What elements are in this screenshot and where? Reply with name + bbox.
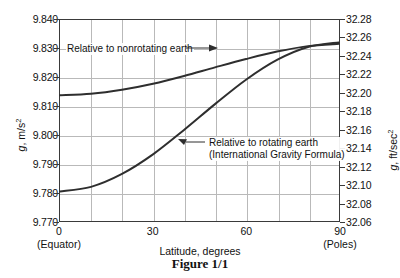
y-axis-right-tickmark (340, 56, 345, 57)
y-axis-left-label: g, m/s2 (14, 119, 28, 152)
y-axis-left-tickmark (54, 106, 59, 107)
y-right-exponent: 2 (386, 130, 395, 134)
y-left-exponent: 2 (14, 119, 23, 123)
y-axis-left-tickmark (54, 135, 59, 136)
y-axis-right-tickmark (340, 111, 345, 112)
x-axis-tick-label: 60 (240, 225, 252, 237)
y-axis-left-tickmark (54, 222, 59, 223)
x-axis-tick-sublabel: (Equator) (37, 238, 81, 250)
y-axis-right-tickmark (340, 222, 345, 223)
y-right-symbol: g (387, 165, 399, 171)
y-axis-left-tickmark (54, 164, 59, 165)
y-axis-left-tickmark (54, 193, 59, 194)
y-axis-right-tick-label: 32.18 (346, 105, 371, 117)
annotation-rotating-line1: Relative to rotating earth (209, 137, 345, 149)
y-right-unit: , ft/sec (387, 134, 399, 165)
y-axis-right-tickmark (340, 185, 345, 186)
y-axis-right-tick-label: 32.28 (346, 13, 371, 25)
annotation-rotating-line2: (International Gravity Formula) (209, 149, 345, 161)
y-axis-right-tick-label: 32.12 (346, 161, 371, 173)
y-axis-right-tickmark (340, 74, 345, 75)
y-left-symbol: g (15, 146, 27, 152)
y-axis-right-tick-label: 32.26 (346, 31, 371, 43)
y-axis-right-tickmark (340, 19, 345, 20)
annotation-rotating: Relative to rotating earth (Internationa… (208, 137, 346, 161)
y-axis-right-tickmark (340, 37, 345, 38)
y-axis-right-tick-label: 32.08 (346, 198, 371, 210)
figure-caption: Figure 1/1 (172, 256, 228, 272)
x-axis-tick-label: 30 (147, 225, 159, 237)
curve-rotating (60, 42, 339, 191)
annotation-nonrotating: Relative to nonrotating earth (66, 43, 194, 55)
y-axis-right-tickmark (340, 93, 345, 94)
y-axis-right-tickmark (340, 130, 345, 131)
y-axis-right-tick-label: 32.22 (346, 68, 371, 80)
y-axis-left-tickmark (54, 19, 59, 20)
y-axis-right-tickmark (340, 204, 345, 205)
y-axis-right-tick-label: 32.14 (346, 142, 371, 154)
x-axis-tick: 30 (147, 225, 159, 237)
y-axis-right-tick-label: 32.20 (346, 87, 371, 99)
x-axis-tick: 60 (240, 225, 252, 237)
y-axis-right-tick-label: 32.10 (346, 179, 371, 191)
x-axis-tick-sublabel: (Poles) (323, 238, 356, 250)
y-left-unit: , m/s (15, 123, 27, 146)
y-axis-right-tickmark (340, 167, 345, 168)
y-axis-right-tick-label: 32.24 (346, 50, 371, 62)
figure-container: 9.8409.8309.8209.8109.8009.7909.7809.770… (0, 0, 400, 278)
x-axis-tick: 90(Poles) (323, 225, 356, 250)
y-axis-left-tickmark (54, 77, 59, 78)
y-axis-right-tick-label: 32.16 (346, 124, 371, 136)
y-axis-left-tickmark (54, 48, 59, 49)
x-axis-tick-label: 90 (334, 225, 346, 237)
x-axis-tick-label: 0 (56, 225, 62, 237)
y-axis-right-label: g, ft/sec2 (386, 130, 400, 171)
x-axis-tick: 0(Equator) (37, 225, 81, 250)
